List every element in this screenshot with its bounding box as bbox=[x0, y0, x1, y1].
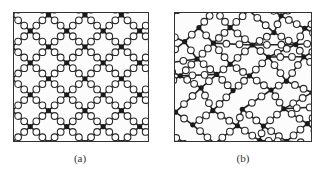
panel-a-ordered-lattice bbox=[13, 12, 149, 142]
caption-b: (b) bbox=[223, 152, 263, 164]
caption-a: (a) bbox=[60, 152, 100, 164]
panel-b-disordered-network bbox=[174, 12, 312, 142]
disordered-network-image bbox=[175, 13, 311, 141]
ordered-lattice-image bbox=[14, 13, 148, 141]
